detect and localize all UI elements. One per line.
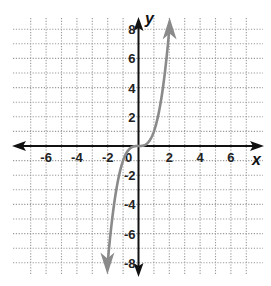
x-tick-label: 6 [227,150,234,165]
y-tick-label: 8 [128,22,135,37]
y-tick-label: -6 [124,227,136,242]
y-tick-label: -8 [124,256,136,271]
y-tick-label: -4 [124,197,136,212]
y-tick-label: 4 [128,81,136,96]
x-tick-label: 2 [166,150,173,165]
x-tick-label: -2 [102,150,114,165]
x-tick-label: -4 [71,150,83,165]
y-tick-label: 6 [128,51,135,66]
x-axis-label: x [251,151,262,168]
y-tick-label: 2 [128,110,135,125]
y-axis-label: y [144,10,155,27]
x-tick-label: 4 [196,150,204,165]
x-tick-label: -6 [40,150,52,165]
cubic-function-graph: -6-4-202468642-2-4-6-8 x y [0,0,271,286]
y-tick-label: -2 [124,168,136,183]
